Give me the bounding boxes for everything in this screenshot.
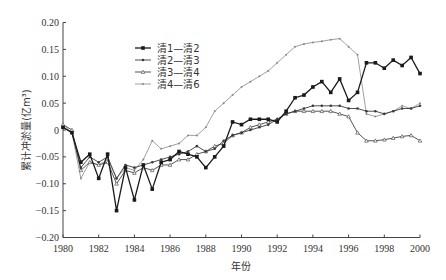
marker-small-dot (214, 110, 216, 112)
marker-dot (303, 107, 306, 110)
marker-small-dot (249, 81, 251, 83)
legend-label: 清1—清2 (157, 42, 200, 54)
x-tick-label: 2000 (410, 243, 430, 254)
marker-dot (133, 166, 136, 169)
legend-label: 清2—清3 (157, 54, 200, 66)
marker-triangle (97, 163, 101, 166)
marker-square (320, 80, 324, 84)
marker-dot (205, 150, 208, 153)
marker-small-dot (312, 41, 314, 43)
x-tick-label: 1988 (196, 243, 216, 254)
x-axis-title: 年份 (231, 260, 251, 272)
series-layer (61, 38, 422, 213)
marker-dot (329, 105, 332, 108)
marker-square (391, 58, 395, 62)
marker-triangle (391, 136, 395, 139)
marker-square (302, 93, 306, 97)
marker-square (222, 144, 226, 148)
x-tick-label: 1996 (339, 243, 359, 254)
marker-small-dot (348, 46, 350, 48)
marker-dot (213, 148, 216, 151)
marker-small-dot (151, 140, 153, 142)
marker-square (177, 150, 181, 154)
marker-small-dot (267, 70, 269, 72)
y-tick-label: 0.15 (42, 44, 60, 55)
marker-dot (115, 177, 118, 180)
legend-item: 清4—清6 (135, 78, 200, 90)
marker-square (142, 163, 146, 167)
y-tick-label: −0.20 (36, 232, 59, 243)
marker-triangle (302, 109, 306, 112)
marker-small-dot (285, 54, 287, 56)
marker-small-dot (142, 83, 144, 85)
marker-dot (267, 123, 270, 126)
marker-dot (294, 110, 297, 113)
marker-square (329, 91, 333, 95)
marker-dot (338, 105, 341, 108)
marker-square (124, 166, 128, 170)
marker-dot (142, 59, 145, 62)
marker-dot (347, 107, 350, 110)
marker-dot (383, 113, 386, 116)
marker-small-dot (321, 40, 323, 42)
marker-square (168, 158, 172, 162)
marker-small-dot (419, 102, 421, 104)
marker-small-dot (187, 134, 189, 136)
line-chart: 0.200.150.100.050−0.05−0.10−0.15−0.20198… (0, 0, 446, 280)
marker-square (186, 152, 190, 156)
marker-triangle (383, 138, 387, 141)
marker-triangle (249, 126, 253, 129)
marker-square (338, 77, 342, 81)
y-tick-label: 0.20 (42, 17, 60, 28)
series-4 (62, 38, 421, 180)
legend-item: 清3—清4 (135, 66, 200, 78)
marker-small-dot (401, 105, 403, 107)
y-tick-label: −0.05 (36, 151, 59, 162)
marker-dot (196, 145, 199, 148)
marker-small-dot (357, 54, 359, 56)
marker-dot (312, 105, 315, 108)
marker-small-dot (365, 113, 367, 115)
marker-dot (97, 161, 100, 164)
marker-square (240, 123, 244, 127)
marker-small-dot (374, 116, 376, 118)
marker-dot (249, 129, 252, 132)
marker-triangle (400, 135, 404, 138)
series-line (63, 111, 420, 184)
marker-square (133, 198, 137, 202)
x-tick-label: 1986 (160, 243, 180, 254)
marker-square (365, 61, 369, 65)
marker-small-dot (205, 126, 207, 128)
marker-dot (80, 166, 83, 169)
marker-square (356, 91, 360, 95)
marker-dot (151, 161, 154, 164)
marker-square (231, 120, 235, 124)
marker-small-dot (330, 39, 332, 41)
marker-square (383, 66, 387, 70)
marker-dot (222, 139, 225, 142)
marker-triangle (213, 144, 217, 147)
marker-dot (231, 134, 234, 137)
y-tick-label: 0.05 (42, 98, 60, 109)
marker-dot (365, 110, 368, 113)
y-tick-label: −0.10 (36, 178, 59, 189)
marker-small-dot (276, 62, 278, 64)
legend-label: 清4—清6 (157, 78, 200, 90)
legend-item: 清2—清3 (135, 54, 200, 66)
y-tick-label: 0.10 (42, 71, 60, 82)
x-tick-label: 1984 (124, 243, 144, 254)
marker-small-dot (241, 86, 243, 88)
x-tick-label: 1982 (89, 243, 109, 254)
marker-triangle (338, 112, 342, 115)
y-axis-title: 累计冲淤量(亿m³) (20, 89, 32, 171)
marker-square (150, 187, 154, 191)
marker-triangle (320, 109, 324, 112)
series-3 (61, 109, 422, 185)
marker-square (347, 99, 351, 103)
marker-small-dot (80, 177, 82, 179)
marker-square (141, 46, 145, 50)
marker-small-dot (223, 102, 225, 104)
marker-square (97, 177, 101, 181)
marker-square (409, 56, 413, 60)
marker-square (249, 117, 253, 121)
